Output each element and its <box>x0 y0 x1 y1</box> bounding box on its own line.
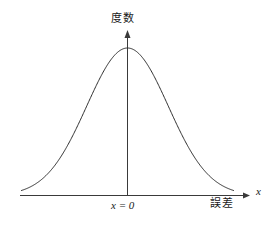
x-axis-quantity-label: 誤差 <box>210 198 233 209</box>
gaussian-error-distribution-figure: 度数 誤差 x = 0 x <box>0 0 275 227</box>
x-axis-arrowhead-icon <box>243 193 250 199</box>
y-axis-label: 度数 <box>111 13 134 24</box>
plot-canvas <box>0 0 275 227</box>
y-axis-arrowhead-icon <box>125 30 131 38</box>
x-variable-label: x <box>256 186 261 197</box>
center-tick-label: x = 0 <box>111 200 134 211</box>
